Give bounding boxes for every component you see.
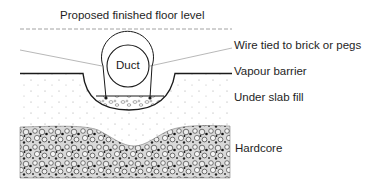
under-slab-fill-label: Under slab fill xyxy=(234,91,304,104)
wire-left-lead xyxy=(20,50,102,66)
wire-right-lead xyxy=(150,48,232,66)
wire-label: Wire tied to brick or pegs xyxy=(234,39,361,52)
hardcore-label: Hardcore xyxy=(235,142,282,155)
duct-section-diagram: Duct Proposed finished floor level Wire … xyxy=(0,0,373,191)
duct-label: Duct xyxy=(116,59,140,72)
wire-anchor-left xyxy=(104,96,107,99)
vapour-barrier-label: Vapour barrier xyxy=(234,65,307,78)
wire-anchor-right xyxy=(148,96,151,99)
section-drawing xyxy=(0,0,373,191)
floor-level-label: Proposed finished floor level xyxy=(60,9,204,22)
